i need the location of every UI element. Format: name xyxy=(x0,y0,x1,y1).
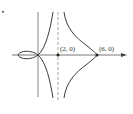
point-6-0 xyxy=(96,54,99,57)
point-label-6-0: (6, 0) xyxy=(99,45,115,53)
point-label-2-0: (2, 0) xyxy=(60,45,76,53)
polar-curve-diagram: (2, 0) (6, 0) xyxy=(0,0,133,114)
point-2-0 xyxy=(57,54,60,57)
figure-mark xyxy=(2,11,4,13)
x-axis-arrow-icon xyxy=(121,53,127,57)
